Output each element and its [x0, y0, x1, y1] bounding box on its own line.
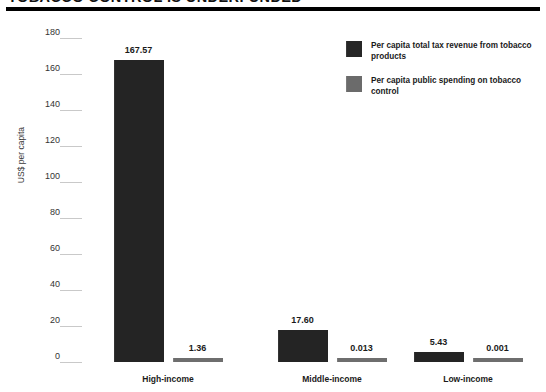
y-axis-tick-label: 120	[18, 135, 60, 145]
bar-high-income-series-2	[173, 358, 223, 362]
y-axis-tick-label: 140	[18, 99, 60, 109]
y-axis-tick-label: 0	[18, 351, 60, 361]
bar-value-label: 17.60	[272, 315, 334, 325]
legend-label: Per capita total tax revenue from tobacc…	[371, 40, 542, 62]
y-axis-tick-label: 100	[18, 171, 60, 181]
y-axis-tick-label: 40	[18, 279, 60, 289]
bar-value-label: 0.001	[467, 343, 529, 353]
legend-item: Per capita total tax revenue from tobacc…	[346, 40, 542, 62]
bar-value-label: 167.57	[108, 45, 170, 55]
y-gridline	[60, 290, 82, 291]
bar-low-income-series-2	[473, 358, 523, 362]
y-gridline	[60, 146, 82, 147]
x-axis-category-label: Low-income	[408, 374, 528, 384]
chart-page: TOBACCO CONTROL IS UNDERFUNDED US$ per c…	[0, 0, 546, 392]
x-axis-category-label: Middle-income	[272, 374, 392, 384]
y-gridline	[60, 254, 82, 255]
y-gridline	[60, 326, 82, 327]
bar-middle-income-series-1	[278, 330, 328, 362]
y-axis-tick-label: 160	[18, 63, 60, 73]
legend-swatch-icon	[346, 76, 362, 92]
bar-middle-income-series-2	[337, 358, 387, 362]
legend-label: Per capita public spending on tobacco co…	[371, 75, 542, 97]
bar-value-label: 5.43	[408, 337, 470, 347]
legend-item: Per capita public spending on tobacco co…	[346, 75, 542, 97]
y-gridline	[60, 362, 82, 363]
y-gridline	[60, 218, 82, 219]
bar-low-income-series-1	[414, 352, 464, 362]
x-axis-category-label: High-income	[108, 374, 228, 384]
bar-value-label: 0.013	[331, 343, 393, 353]
chart-legend: Per capita total tax revenue from tobacc…	[346, 40, 542, 110]
legend-swatch-icon	[346, 41, 362, 57]
bar-high-income-series-1	[114, 60, 164, 362]
y-gridline	[60, 38, 82, 39]
y-gridline	[60, 110, 82, 111]
y-axis-tick-label: 180	[18, 27, 60, 37]
bar-value-label: 1.36	[167, 343, 229, 353]
y-gridline	[60, 74, 82, 75]
y-axis-tick-label: 20	[18, 315, 60, 325]
y-axis-tick-label: 60	[18, 243, 60, 253]
y-gridline	[60, 182, 82, 183]
y-axis-tick-label: 80	[18, 207, 60, 217]
